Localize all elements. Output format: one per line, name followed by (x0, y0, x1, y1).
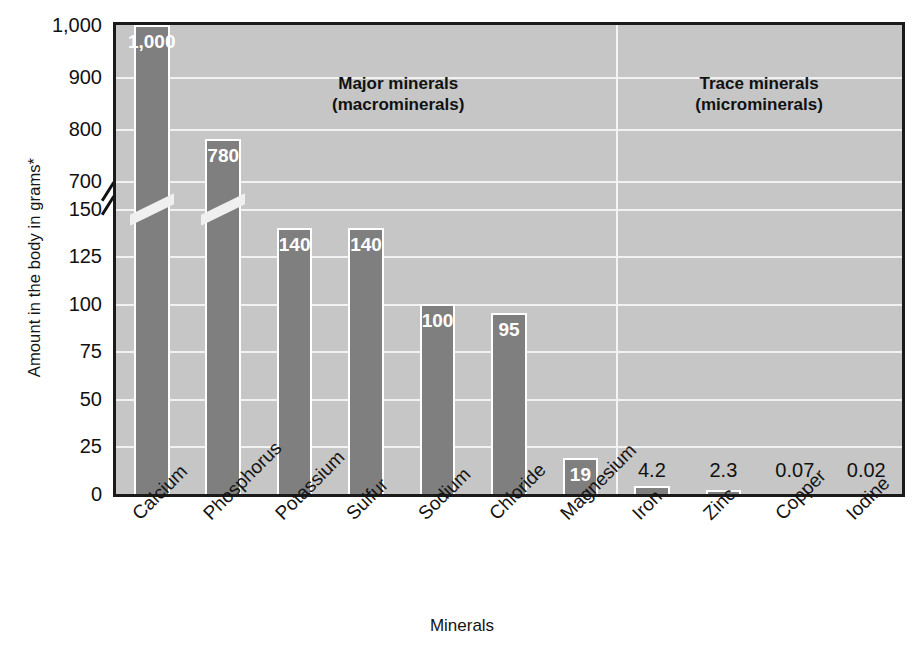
x-tick-label: Iodine (842, 472, 894, 524)
x-axis-title: Minerals (0, 616, 924, 636)
x-tick-label: Chloride (485, 459, 551, 525)
x-tick-label: Zinc (699, 484, 740, 525)
x-tick-label: Calcium (128, 460, 192, 524)
x-tick-label: Sulfur (342, 474, 393, 525)
x-tick-label: Magnesium (556, 440, 641, 525)
mineral-bar-chart: Amount in the body in grams* 1,000900800… (0, 0, 924, 648)
x-tick-label: Potassium (271, 446, 349, 524)
x-tick-label: Copper (771, 465, 831, 525)
x-axis-tick-labels: CalciumPhosphorusPotassiumSulfurSodiumCh… (0, 0, 924, 648)
x-tick-label: Iron (628, 486, 667, 525)
x-tick-label: Sodium (414, 463, 475, 524)
